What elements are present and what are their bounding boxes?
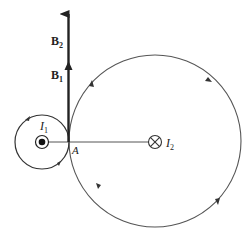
label-b1: B1 — [51, 68, 63, 84]
magnetic-field-diagram: B2 B1 I1 I2 A — [0, 0, 252, 235]
current-out-of-page-icon — [36, 136, 49, 149]
label-i2: I2 — [165, 136, 174, 152]
vector-b1-arrowhead — [65, 61, 73, 70]
current-into-page-icon — [149, 136, 162, 149]
label-b2: B2 — [51, 34, 63, 50]
label-point-a: A — [71, 144, 79, 156]
label-i1: I1 — [39, 119, 48, 135]
